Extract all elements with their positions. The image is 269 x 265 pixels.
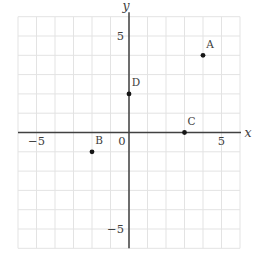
x-axis-label: x (244, 125, 251, 140)
point-a (201, 53, 206, 58)
coordinate-plane-chart: xy−555−50ABCD (0, 0, 269, 265)
point-c (182, 130, 187, 135)
point-b (90, 149, 95, 154)
point-label-d: D (132, 76, 140, 88)
x-tick-label--5: −5 (28, 134, 45, 148)
y-tick-label-5: 5 (117, 29, 124, 43)
point-label-b: B (95, 134, 103, 146)
origin-label: 0 (118, 134, 125, 148)
y-axis-label: y (121, 0, 130, 13)
graph-container: xy−555−50ABCD (0, 0, 269, 265)
y-tick-label--5: −5 (107, 222, 124, 236)
point-label-a: A (205, 38, 214, 50)
point-d (127, 92, 132, 97)
x-tick-label-5: 5 (218, 134, 225, 148)
point-label-c: C (187, 115, 195, 127)
